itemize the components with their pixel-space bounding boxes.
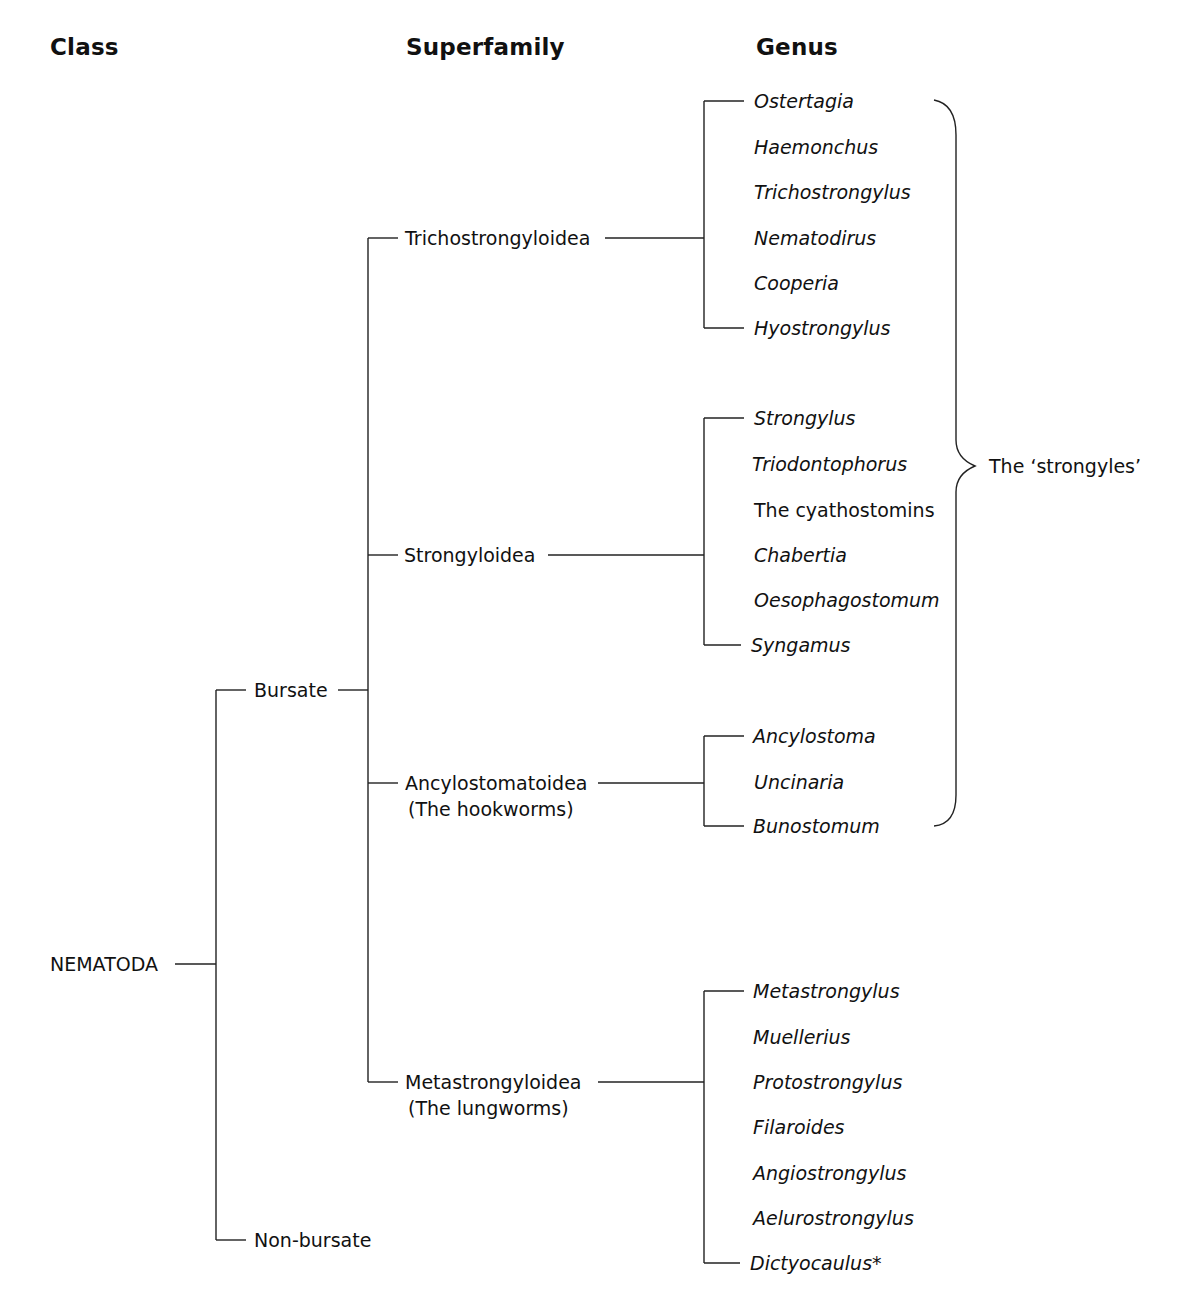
genus-cooperia: Cooperia: [754, 272, 839, 294]
genus-nematodirus: Nematodirus: [754, 227, 876, 249]
genus-bunostomum: Bunostomum: [753, 815, 880, 837]
superfamily-metastrongyloidea: Metastrongyloidea: [405, 1071, 581, 1093]
genus-muellerius: Muellerius: [753, 1026, 850, 1048]
genus-trichostrongylus: Trichostrongylus: [754, 181, 911, 203]
superfamily-trichostrongyloidea: Trichostrongyloidea: [405, 227, 590, 249]
genus-aelurostrongylus: Aelurostrongylus: [753, 1207, 914, 1229]
genus-filaroides: Filaroides: [753, 1116, 845, 1138]
genus-oesophagostomum: Oesophagostomum: [754, 589, 940, 611]
class-non-bursate: Non-bursate: [254, 1229, 371, 1251]
class-bursate: Bursate: [254, 679, 328, 701]
genus-triodontophorus: Triodontophorus: [752, 453, 907, 475]
genus-ancylostoma: Ancylostoma: [753, 725, 876, 747]
genus-uncinaria: Uncinaria: [754, 771, 844, 793]
genus-haemonchus: Haemonchus: [754, 136, 878, 158]
genus-cyathostomins: The cyathostomins: [754, 499, 935, 521]
genus-syngamus: Syngamus: [751, 634, 851, 656]
genus-angiostrongylus: Angiostrongylus: [753, 1162, 906, 1184]
superfamily-ancylostomatoidea: Ancylostomatoidea: [405, 772, 588, 794]
genus-chabertia: Chabertia: [754, 544, 847, 566]
strongyles-brace-label: The ‘strongyles’: [989, 455, 1141, 477]
genus-hyostrongylus: Hyostrongylus: [754, 317, 891, 339]
root-nematoda: NEMATODA: [50, 953, 158, 975]
superfamily-metastrongyloidea-note: (The lungworms): [408, 1097, 569, 1119]
genus-strongylus: Strongylus: [754, 407, 856, 429]
genus-metastrongylus: Metastrongylus: [753, 980, 900, 1002]
tree-connectors: [0, 0, 1188, 1307]
genus-dictyocaulus: Dictyocaulus*: [750, 1252, 882, 1274]
superfamily-strongyloidea: Strongyloidea: [404, 544, 535, 566]
superfamily-ancylostomatoidea-note: (The hookworms): [408, 798, 574, 820]
genus-protostrongylus: Protostrongylus: [753, 1071, 902, 1093]
genus-ostertagia: Ostertagia: [754, 90, 854, 112]
